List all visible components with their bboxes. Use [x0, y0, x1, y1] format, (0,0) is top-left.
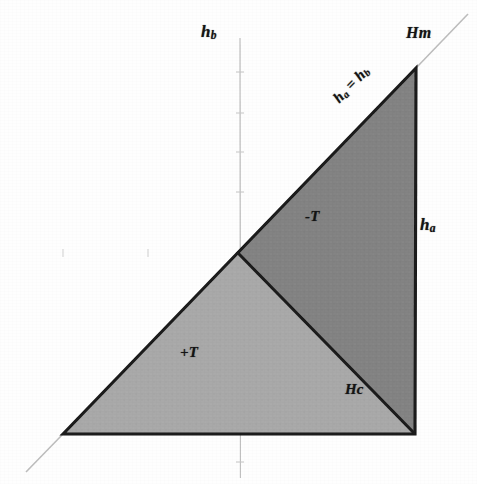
positive-torsion-text: +T — [180, 344, 198, 360]
hc-label: Hc — [345, 381, 364, 398]
vertical-axis-label-text: hb — [201, 22, 217, 41]
diagram-svg — [0, 0, 477, 484]
hm-label: Hm — [406, 24, 431, 42]
vertical-axis-label: hb — [201, 22, 217, 42]
horizontal-axis-label: ha — [420, 215, 436, 235]
negative-torsion-text: -T — [305, 208, 320, 224]
hm-label-text: Hm — [406, 24, 431, 41]
hc-label-text: Hc — [345, 381, 364, 397]
horizontal-axis-label-text: ha — [420, 215, 436, 234]
negative-torsion-label: -T — [305, 208, 320, 225]
positive-torsion-label: +T — [180, 344, 198, 361]
figure-canvas: hb Hm ha ha = hb -T +T Hc — [0, 0, 477, 484]
